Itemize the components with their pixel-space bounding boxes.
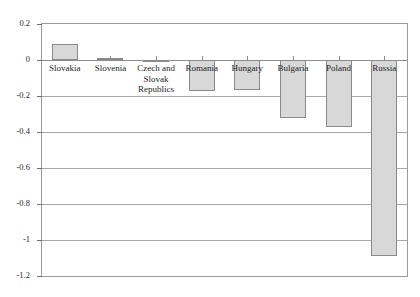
bar — [143, 60, 169, 62]
y-tick-mark — [37, 204, 42, 205]
y-tick-mark — [37, 132, 42, 133]
bar — [189, 60, 215, 91]
gridline--1 — [42, 240, 407, 241]
bar — [52, 44, 78, 60]
plot-area: SlovakiaSloveniaCzech and Slovak Republi… — [41, 23, 408, 277]
y-tick-label: -0.8 — [17, 199, 30, 208]
y-tick-label: -0.4 — [17, 127, 30, 136]
category-label: Slovenia — [82, 63, 140, 74]
bar — [371, 60, 397, 256]
bar-chart-figure: 0.20-0.2-0.4-0.6-0.8-1-1.2 SlovakiaSlove… — [0, 0, 420, 297]
y-tick-mark — [37, 240, 42, 241]
gridline--0.2 — [42, 96, 407, 97]
gridline--0.6 — [42, 168, 407, 169]
y-tick-mark — [37, 24, 42, 25]
y-axis-tick-labels: 0.20-0.2-0.4-0.6-0.8-1-1.2 — [0, 23, 38, 277]
y-tick-mark — [37, 96, 42, 97]
y-tick-mark — [37, 276, 42, 277]
bar — [97, 58, 123, 60]
category-label: Slovakia — [36, 63, 94, 74]
y-tick-label: 0 — [26, 55, 30, 64]
y-tick-mark — [37, 60, 42, 61]
bar — [326, 60, 352, 127]
category-label: Czech and Slovak Republics — [127, 63, 185, 95]
y-tick-label: -1 — [23, 235, 30, 244]
y-tick-label: -0.2 — [17, 91, 30, 100]
gridline--0.4 — [42, 132, 407, 133]
y-tick-label: -1.2 — [17, 271, 30, 280]
bar — [234, 60, 260, 90]
y-tick-mark — [37, 168, 42, 169]
gridline--0.8 — [42, 204, 407, 205]
y-tick-label: -0.6 — [17, 163, 30, 172]
bar — [280, 60, 306, 118]
y-tick-label: 0.2 — [19, 19, 30, 28]
